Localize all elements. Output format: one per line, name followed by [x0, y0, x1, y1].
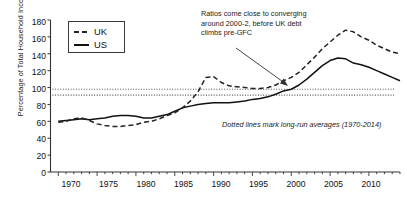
chart-container: Percentage of Total Household Income 180…	[0, 0, 407, 205]
convergence-annotation: Ratios come close to converging around 2…	[201, 9, 309, 38]
legend-item-uk: UK	[74, 25, 107, 38]
x-tick-marks	[58, 172, 400, 176]
chart-legend: UK US	[68, 21, 125, 53]
legend-label-us: US	[94, 39, 107, 50]
legend-label-uk: UK	[94, 26, 107, 37]
legend-item-us: US	[74, 38, 107, 51]
legend-swatch-uk-dashed-icon	[74, 28, 89, 36]
annotation-arrow	[236, 48, 288, 86]
legend-swatch-us-solid-icon	[74, 41, 89, 49]
series-line-us	[58, 58, 400, 121]
reference-lines	[53, 89, 395, 95]
dotted-line-note: Dotted lines mark long-run averages (197…	[222, 120, 381, 129]
